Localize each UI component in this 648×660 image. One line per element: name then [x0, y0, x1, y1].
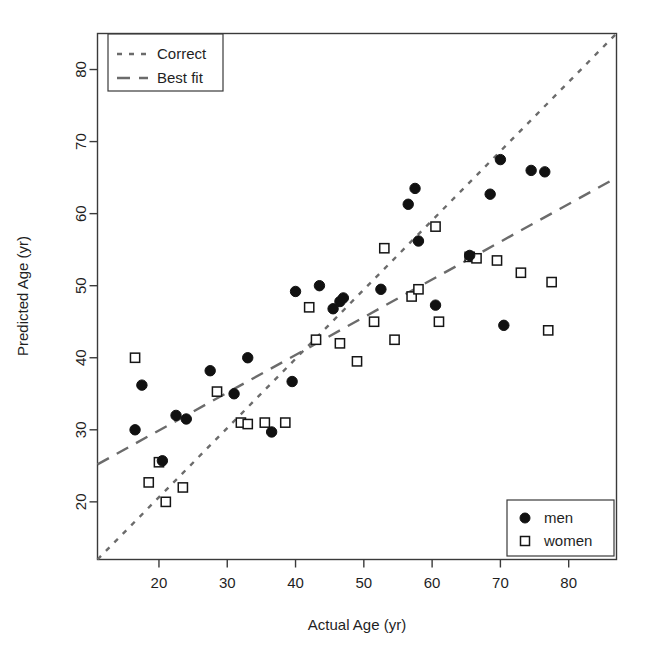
data-point-women	[281, 418, 290, 427]
data-point-men	[130, 425, 140, 435]
y-tick-label: 50	[73, 277, 90, 294]
data-point-women	[260, 418, 269, 427]
data-point-men	[229, 389, 239, 399]
data-point-men	[540, 167, 550, 177]
data-point-women	[130, 353, 139, 362]
data-point-men	[314, 280, 324, 290]
data-point-men	[464, 250, 474, 260]
data-point-women	[335, 339, 344, 348]
data-point-men	[413, 236, 423, 246]
chart-canvas: 20304050607080 20304050607080 Actual Age…	[0, 0, 648, 660]
data-point-women	[212, 387, 221, 396]
y-tick-label: 40	[73, 349, 90, 366]
data-point-women	[311, 335, 320, 344]
data-point-men	[499, 320, 509, 330]
data-point-men	[266, 427, 276, 437]
legend-swatch-women	[521, 537, 530, 546]
x-axis-title: Actual Age (yr)	[308, 616, 406, 633]
data-point-men	[137, 380, 147, 390]
data-point-men	[181, 414, 191, 424]
y-axis-title: Predicted Age (yr)	[14, 236, 31, 356]
data-point-women	[243, 419, 252, 428]
legend-label-men: men	[544, 509, 573, 526]
data-point-women	[414, 285, 423, 294]
x-tick-label: 30	[219, 574, 236, 591]
data-point-women	[547, 277, 556, 286]
data-point-women	[431, 222, 440, 231]
x-tick-label: 80	[560, 574, 577, 591]
x-tick-label: 60	[424, 574, 441, 591]
data-point-women	[144, 478, 153, 487]
legend-label-women: women	[543, 532, 592, 549]
data-point-women	[492, 256, 501, 265]
data-point-men	[430, 300, 440, 310]
scatter-plot-figure: 20304050607080 20304050607080 Actual Age…	[0, 0, 648, 660]
data-point-women	[161, 497, 170, 506]
data-point-women	[178, 483, 187, 492]
data-point-men	[287, 376, 297, 386]
x-tick-label: 20	[151, 574, 168, 591]
data-point-men	[205, 366, 215, 376]
data-point-men	[485, 189, 495, 199]
legend-line-styles: Correct Best fit	[108, 34, 223, 91]
data-point-men	[243, 353, 253, 363]
y-tick-label: 70	[73, 133, 90, 150]
x-tick-label: 70	[492, 574, 509, 591]
data-point-men	[376, 284, 386, 294]
data-point-men	[338, 293, 348, 303]
data-point-women	[352, 357, 361, 366]
y-tick-label: 30	[73, 421, 90, 438]
data-point-men	[157, 456, 167, 466]
data-point-women	[305, 303, 314, 312]
y-tick-label: 80	[73, 61, 90, 78]
legend-label-bestfit: Best fit	[157, 69, 204, 86]
legend-markers: men women	[507, 500, 614, 556]
data-point-men	[495, 154, 505, 164]
data-point-women	[544, 326, 553, 335]
data-point-women	[434, 317, 443, 326]
y-tick-label: 60	[73, 205, 90, 222]
data-point-men	[171, 410, 181, 420]
data-point-men	[403, 199, 413, 209]
data-point-women	[390, 335, 399, 344]
data-point-men	[290, 286, 300, 296]
x-tick-label: 40	[287, 574, 304, 591]
legend-label-correct: Correct	[157, 45, 207, 62]
data-point-men	[410, 183, 420, 193]
data-point-women	[380, 244, 389, 253]
y-tick-label: 20	[73, 494, 90, 511]
data-point-women	[369, 317, 378, 326]
legend-swatch-men	[520, 513, 530, 523]
data-point-women	[516, 268, 525, 277]
x-tick-label: 50	[355, 574, 372, 591]
data-point-men	[526, 165, 536, 175]
